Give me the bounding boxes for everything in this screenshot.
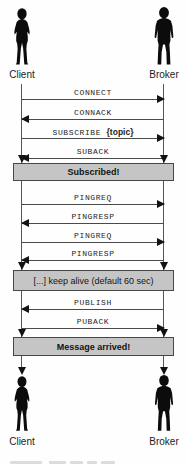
message-label: PINGREQ bbox=[22, 231, 164, 241]
arrow-right-icon bbox=[22, 242, 164, 243]
message-pingresp-2: PINGRESP bbox=[22, 249, 164, 261]
arrow-down-icon bbox=[18, 262, 26, 270]
message-publish: PUBLISH bbox=[22, 298, 164, 310]
arrow-left-icon bbox=[22, 309, 164, 310]
arrow-left-icon bbox=[22, 119, 164, 120]
actor-broker-bottom bbox=[148, 375, 180, 434]
arrow-down-icon bbox=[160, 262, 168, 270]
message-pingreq-1: PINGREQ bbox=[22, 193, 164, 205]
arrow-down-icon bbox=[18, 367, 26, 375]
actor-client-bottom bbox=[7, 376, 37, 434]
message-label: PINGRESP bbox=[22, 212, 164, 222]
arrow-right-icon bbox=[22, 328, 164, 329]
actor-label-client-top: Client bbox=[0, 69, 44, 80]
arrow-down-icon bbox=[160, 329, 168, 337]
message-connect: CONNECT bbox=[22, 88, 164, 100]
message-label: CONNECT bbox=[22, 88, 164, 98]
message-pingresp-1: PINGRESP bbox=[22, 212, 164, 224]
message-label: PUBACK bbox=[22, 317, 164, 327]
message-label: SUBSCRIBE {topic} bbox=[22, 127, 164, 137]
message-label: CONNACK bbox=[22, 108, 164, 118]
arrow-down-icon bbox=[18, 155, 26, 163]
note-message-arrived: Message arrived! bbox=[13, 337, 174, 356]
arrow-down-icon bbox=[160, 367, 168, 375]
message-puback: PUBACK bbox=[22, 317, 164, 329]
arrow-right-icon bbox=[22, 204, 164, 205]
actor-label-broker-top: Broker bbox=[142, 69, 186, 80]
actor-broker-top bbox=[148, 7, 180, 68]
arrow-right-icon bbox=[22, 99, 164, 100]
message-label: SUBACK bbox=[22, 147, 164, 157]
woman-silhouette-icon bbox=[7, 8, 37, 68]
actor-client-top bbox=[7, 8, 37, 68]
arrow-down-icon bbox=[160, 155, 168, 163]
man-silhouette-icon bbox=[148, 7, 180, 68]
message-connack: CONNACK bbox=[22, 108, 164, 120]
message-subscribe: SUBSCRIBE {topic} bbox=[22, 127, 164, 139]
message-label: PUBLISH bbox=[22, 298, 164, 308]
message-label: PINGRESP bbox=[22, 249, 164, 259]
arrow-left-icon bbox=[22, 158, 164, 159]
actor-label-client-bottom: Client bbox=[0, 436, 44, 447]
note-keep-alive: [...] keep alive (default 60 sec) bbox=[13, 270, 174, 291]
arrow-left-icon bbox=[22, 223, 164, 224]
message-suback: SUBACK bbox=[22, 147, 164, 159]
arrow-down-icon bbox=[18, 329, 26, 337]
note-subscribed: Subscribed! bbox=[13, 163, 174, 181]
actor-label-broker-bottom: Broker bbox=[142, 436, 186, 447]
woman-silhouette-icon bbox=[7, 376, 37, 434]
man-silhouette-icon bbox=[148, 375, 180, 434]
message-label: PINGREQ bbox=[22, 193, 164, 203]
mqtt-sequence-diagram: Client Broker CONNECT CONNACK SUBSCRIBE … bbox=[0, 0, 187, 465]
message-pingreq-2: PINGREQ bbox=[22, 231, 164, 243]
topic-placeholder: {topic} bbox=[107, 127, 134, 137]
arrow-left-icon bbox=[22, 260, 164, 261]
arrow-right-icon bbox=[22, 138, 164, 139]
